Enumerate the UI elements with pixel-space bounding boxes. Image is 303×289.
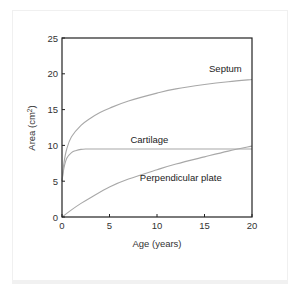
y-axis-title-main: Area (cm — [26, 112, 37, 151]
x-tick-label: 10 — [152, 220, 163, 231]
y-tick-label: 20 — [47, 68, 58, 79]
y-tick-label: 0 — [53, 212, 58, 223]
labels-layer: SeptumCartilagePerpendicular plate — [130, 63, 241, 183]
x-tick-label: 5 — [107, 220, 112, 231]
line-chart: 051015200510152025 SeptumCartilagePerpen… — [0, 0, 303, 289]
axes-layer: 051015200510152025 — [47, 33, 257, 232]
series-label-cartilage: Cartilage — [130, 134, 168, 145]
x-axis-title: Age (years) — [132, 238, 181, 249]
y-tick-label: 25 — [47, 33, 58, 44]
series-layer — [62, 80, 252, 217]
x-tick-label: 20 — [247, 220, 258, 231]
x-tick-label: 0 — [59, 220, 64, 231]
series-label-septum: Septum — [209, 63, 242, 74]
y-axis-title-close: ) — [26, 105, 37, 108]
y-axis-title: Area (cm2) — [26, 105, 37, 150]
series-label-perpendicular-plate: Perpendicular plate — [140, 172, 222, 183]
series-line-septum — [62, 80, 252, 182]
y-tick-label: 5 — [53, 176, 58, 187]
x-tick-label: 15 — [199, 220, 210, 231]
y-tick-label: 10 — [47, 140, 58, 151]
y-tick-label: 15 — [47, 104, 58, 115]
